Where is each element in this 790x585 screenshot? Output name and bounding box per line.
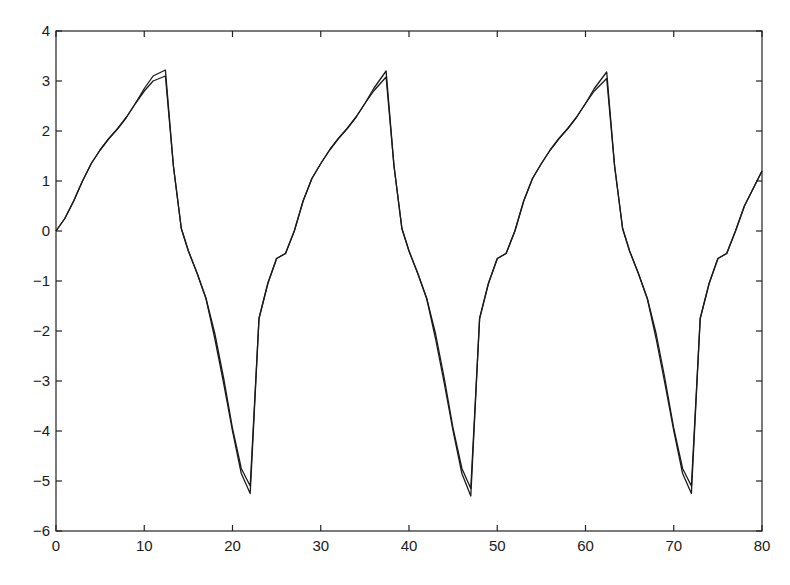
series-line-2 (56, 76, 762, 489)
x-tick-label: 60 (577, 537, 594, 554)
x-tick-label: 0 (52, 537, 60, 554)
y-tick-label: 1 (42, 172, 50, 189)
y-tick-label: 3 (42, 72, 50, 89)
x-axis: 01020304050607080 (52, 31, 771, 554)
x-tick-label: 40 (401, 537, 418, 554)
y-tick-label: 2 (42, 122, 50, 139)
y-tick-label: 0 (42, 222, 50, 239)
y-tick-label: −3 (33, 372, 50, 389)
series-line-1 (56, 70, 762, 496)
x-tick-label: 50 (489, 537, 506, 554)
x-tick-label: 10 (136, 537, 153, 554)
plot-area (56, 70, 762, 496)
x-tick-label: 30 (312, 537, 329, 554)
y-tick-label: 4 (42, 22, 50, 39)
line-chart: 01020304050607080 43210−1−2−3−4−5−6 (0, 0, 790, 585)
y-tick-label: −1 (33, 272, 50, 289)
y-axis: 43210−1−2−3−4−5−6 (33, 22, 762, 539)
y-tick-label: −2 (33, 322, 50, 339)
y-tick-label: −4 (33, 422, 50, 439)
y-tick-label: −5 (33, 472, 50, 489)
plot-frame (56, 31, 762, 531)
y-tick-label: −6 (33, 522, 50, 539)
x-tick-label: 20 (224, 537, 241, 554)
x-tick-label: 70 (665, 537, 682, 554)
x-tick-label: 80 (754, 537, 771, 554)
